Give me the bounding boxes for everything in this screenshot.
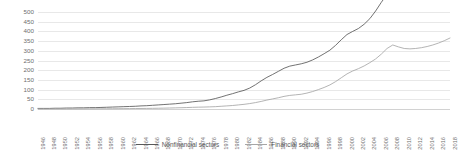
y-axis-tick-labels: 050100150200250300350400450500 [0, 0, 34, 109]
legend-swatch-financial-sectors [245, 144, 267, 145]
y-axis-tick-label: 500 [0, 9, 34, 15]
y-axis-tick-label: 200 [0, 67, 34, 73]
legend-swatch-nonfinancial-sectors [136, 144, 158, 145]
y-axis-tick-label: 250 [0, 58, 34, 64]
y-axis-tick-label: 150 [0, 77, 34, 83]
legend-item-financial-sectors: Financial sectors [245, 141, 319, 148]
y-axis-tick-label: 0 [0, 106, 34, 112]
y-axis-tick-label: 100 [0, 87, 34, 93]
plot-area [38, 12, 450, 109]
series-lines [38, 12, 450, 109]
y-axis-tick-label: 350 [0, 38, 34, 44]
legend-label-financial-sectors: Financial sectors [271, 141, 319, 148]
chart-legend: Nonfinancial sectors Financial sectors [0, 137, 455, 151]
legend-label-nonfinancial-sectors: Nonfinancial sectors [162, 141, 220, 148]
series-line [38, 0, 450, 108]
y-axis-tick-label: 450 [0, 19, 34, 25]
legend-item-nonfinancial-sectors: Nonfinancial sectors [136, 141, 220, 148]
series-line [38, 38, 450, 109]
y-axis-tick-label: 400 [0, 28, 34, 34]
y-axis-tick-label: 300 [0, 48, 34, 54]
y-axis-tick-label: 50 [0, 96, 34, 102]
